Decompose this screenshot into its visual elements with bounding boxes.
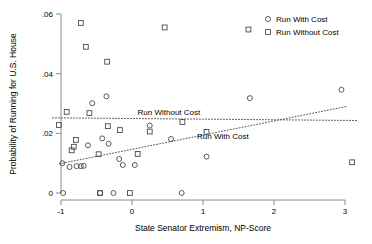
x-tick-label-2: 1: [201, 207, 206, 216]
chart-root: 0.02.04.06-10123 Run Without CostRun Wit…: [0, 0, 372, 244]
annotation-0: Run Without Cost: [138, 108, 201, 117]
x-tick-label-4: 3: [343, 207, 348, 216]
y-axis-title: Probability of Running for U.S. House: [8, 33, 18, 175]
y-tick-label-1: .02: [42, 129, 54, 138]
scatter-chart: 0.02.04.06-10123 Run Without CostRun Wit…: [0, 0, 372, 244]
legend-label-0: Run With Cost: [276, 15, 328, 24]
y-tick-label-2: .04: [42, 70, 54, 79]
y-tick-label-3: .06: [42, 10, 54, 19]
annotation-1: Run With Cost: [197, 132, 249, 141]
x-tick-label-3: 2: [272, 207, 277, 216]
legend-label-1: Run Without Cost: [276, 28, 339, 37]
x-tick-label-1: 0: [130, 207, 135, 216]
y-tick-label-0: 0: [49, 189, 54, 198]
x-tick-label-0: -1: [57, 207, 65, 216]
x-axis-title: State Senator Extremism, NP-Score: [135, 223, 271, 233]
